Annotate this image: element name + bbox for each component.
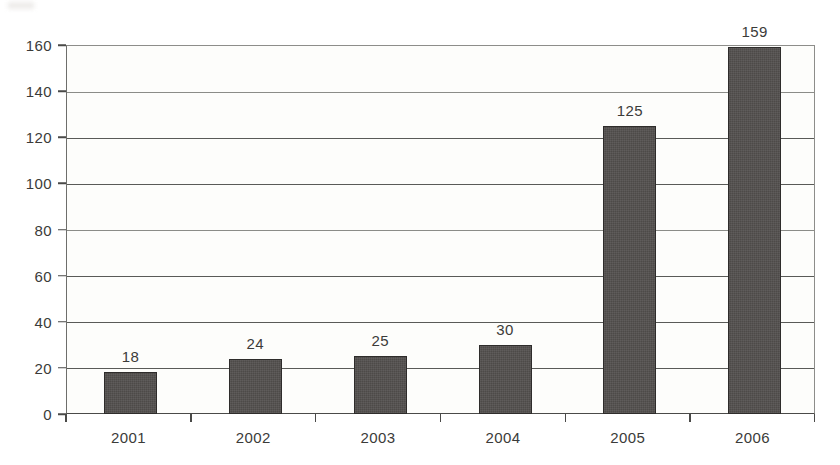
- bar-value-label-2001: 18: [122, 348, 140, 365]
- bar-2005: [603, 126, 656, 414]
- x-tick-mark-2006: [689, 414, 691, 422]
- gridline-40: [67, 322, 814, 323]
- x-tick-mark-2002: [190, 414, 192, 422]
- y-tick-label-20: 20: [35, 359, 53, 376]
- x-tick-mark-2003: [315, 414, 317, 422]
- bar-value-label-2003: 25: [371, 332, 389, 349]
- y-tick-mark-40: [58, 321, 66, 323]
- x-tick-mark-2001: [65, 414, 67, 422]
- x-axis-label-2005: 2005: [610, 429, 645, 446]
- y-tick-mark-140: [58, 90, 66, 92]
- bar-value-label-2005: 125: [617, 102, 643, 119]
- x-axis-label-2003: 2003: [361, 429, 396, 446]
- y-tick-mark-20: [58, 367, 66, 369]
- y-tick-label-160: 160: [26, 37, 52, 54]
- y-tick-mark-60: [58, 275, 66, 277]
- y-tick-mark-80: [58, 229, 66, 231]
- gridline-100: [67, 184, 814, 185]
- bar-value-label-2002: 24: [247, 335, 265, 352]
- y-tick-label-60: 60: [35, 267, 53, 284]
- chart-plot-area: [66, 45, 815, 414]
- bar-2004: [479, 345, 532, 414]
- y-tick-mark-120: [58, 137, 66, 139]
- gridline-60: [67, 276, 814, 277]
- x-axis-label-2006: 2006: [735, 429, 770, 446]
- gridline-20: [67, 368, 814, 369]
- x-tick-mark-end: [814, 414, 816, 422]
- y-tick-label-40: 40: [35, 313, 53, 330]
- x-tick-mark-2005: [565, 414, 567, 422]
- y-tick-label-120: 120: [26, 129, 52, 146]
- y-tick-label-140: 140: [26, 83, 52, 100]
- bar-chart-screenshot: 020406080100120140160 200120022003200420…: [0, 0, 840, 465]
- bar-2001: [104, 372, 157, 414]
- x-axis-label-2002: 2002: [236, 429, 271, 446]
- bar-2002: [229, 359, 282, 414]
- y-tick-mark-160: [58, 44, 66, 46]
- gridline-80: [67, 230, 814, 231]
- bar-2003: [354, 356, 407, 414]
- y-tick-label-0: 0: [43, 406, 52, 423]
- bar-2006: [728, 47, 781, 414]
- bar-value-label-2004: 30: [496, 321, 514, 338]
- gridline-140: [67, 92, 814, 93]
- x-tick-mark-2004: [440, 414, 442, 422]
- y-axis: 020406080100120140160: [0, 0, 66, 465]
- y-tick-label-80: 80: [35, 221, 53, 238]
- y-tick-mark-100: [58, 183, 66, 185]
- x-axis-label-2004: 2004: [485, 429, 520, 446]
- y-tick-label-100: 100: [26, 175, 52, 192]
- gridline-120: [67, 138, 814, 139]
- x-axis-label-2001: 2001: [111, 429, 146, 446]
- bar-value-label-2006: 159: [742, 23, 768, 40]
